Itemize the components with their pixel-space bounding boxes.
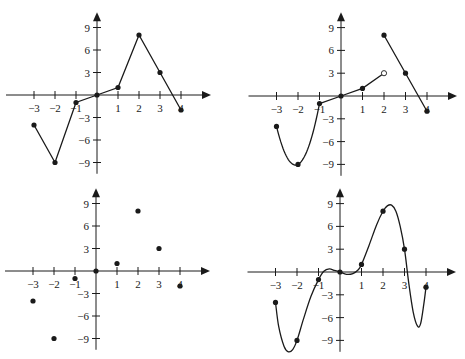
y-tick-label: 9 [85, 22, 91, 34]
data-point [52, 160, 57, 165]
plot-bottom-right: −3−2−11234963−3−6−9 [248, 188, 457, 352]
x-tick-label: 3 [403, 103, 409, 115]
x-axis-arrow-icon [201, 267, 210, 275]
x-tick-label: 3 [157, 102, 163, 114]
y-axis-arrow-icon [93, 12, 101, 21]
data-point [403, 71, 408, 76]
y-tick-label: −6 [322, 136, 334, 148]
y-tick-label: 9 [329, 22, 335, 34]
data-point [177, 283, 182, 288]
y-tick-label: −3 [322, 113, 334, 125]
y-tick-label: −9 [78, 157, 90, 169]
y-tick-label: 6 [328, 220, 334, 232]
x-tick-label: 3 [402, 279, 408, 291]
data-point [360, 86, 365, 91]
data-point [337, 269, 342, 274]
x-axis-arrow-icon [448, 92, 457, 100]
data-point [274, 124, 279, 129]
x-axis-arrow-icon [202, 91, 211, 99]
data-point [424, 109, 429, 114]
x-tick-label: 2 [381, 103, 387, 115]
x-tick-label: 1 [115, 102, 121, 114]
open-data-point [381, 71, 386, 76]
y-tick-label: −9 [321, 334, 333, 346]
y-tick-label: −3 [77, 288, 89, 300]
y-tick-label: 3 [328, 243, 334, 255]
plot-bottom-left: −3−2−11234963−3−6−9 [5, 188, 210, 350]
data-point [380, 209, 385, 214]
data-point [294, 338, 299, 343]
y-tick-label: −9 [322, 158, 334, 170]
y-tick-label: 3 [85, 67, 91, 79]
data-point [114, 261, 119, 266]
y-tick-label: 6 [85, 44, 91, 56]
x-tick-label: 3 [156, 278, 162, 290]
data-point [423, 285, 428, 290]
data-point [402, 247, 407, 252]
y-tick-label: 3 [329, 67, 335, 79]
data-point [115, 85, 120, 90]
y-tick-label: −6 [321, 312, 333, 324]
y-tick-label: −3 [321, 289, 333, 301]
y-tick-label: 3 [84, 243, 90, 255]
y-tick-label: 9 [328, 198, 334, 210]
x-tick-label: −2 [292, 103, 304, 115]
x-tick-label: 2 [380, 279, 386, 291]
y-axis-arrow-icon [92, 188, 100, 197]
x-tick-label: 1 [360, 103, 366, 115]
plot-top-right: −3−2−11234963−3−6−9 [249, 12, 458, 176]
figure: −3−2−11234963−3−6−9 −3−2−11234963−3−6−9 … [0, 0, 465, 359]
data-point [295, 162, 300, 167]
data-point [178, 107, 183, 112]
x-axis-arrow-icon [447, 268, 456, 276]
y-tick-label: −3 [78, 112, 90, 124]
data-point [359, 262, 364, 267]
y-tick-label: 6 [329, 44, 335, 56]
x-tick-label: −3 [270, 279, 282, 291]
data-point [51, 336, 56, 341]
y-tick-label: −9 [77, 333, 89, 345]
x-tick-label: −2 [291, 279, 303, 291]
data-point [31, 122, 36, 127]
x-tick-label: 2 [135, 278, 141, 290]
x-tick-label: −3 [27, 278, 39, 290]
y-tick-label: 6 [84, 220, 90, 232]
x-tick-label: −3 [271, 103, 283, 115]
data-point [135, 208, 140, 213]
data-point [338, 93, 343, 98]
x-tick-label: −2 [48, 278, 60, 290]
data-point [72, 276, 77, 281]
y-tick-label: 9 [84, 198, 90, 210]
data-point [156, 246, 161, 251]
data-point [93, 268, 98, 273]
y-tick-label: −6 [77, 310, 89, 322]
data-point [273, 300, 278, 305]
y-axis-arrow-icon [336, 188, 344, 197]
x-tick-label: −3 [28, 102, 40, 114]
x-tick-label: −2 [49, 102, 61, 114]
plot-top-left: −3−2−11234963−3−6−9 [6, 12, 211, 174]
data-point [317, 101, 322, 106]
data-point [73, 100, 78, 105]
x-tick-label: 1 [359, 279, 365, 291]
x-tick-label: 1 [114, 278, 120, 290]
y-axis-arrow-icon [337, 12, 345, 21]
x-tick-label: 2 [136, 102, 142, 114]
data-point [157, 70, 162, 75]
data-point [30, 298, 35, 303]
connecting-line [34, 35, 181, 163]
plots-canvas: −3−2−11234963−3−6−9 −3−2−11234963−3−6−9 … [0, 0, 465, 359]
data-point [316, 277, 321, 282]
y-tick-label: −6 [78, 134, 90, 146]
data-point [136, 32, 141, 37]
data-point [94, 92, 99, 97]
data-point [381, 33, 386, 38]
